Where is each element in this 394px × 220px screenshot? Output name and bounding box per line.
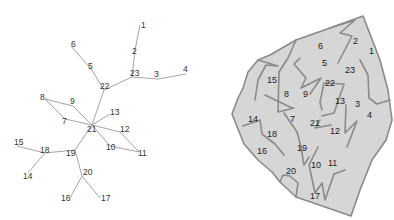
- region-label-20: 20: [286, 166, 296, 176]
- tree-edge-20-17: [82, 176, 100, 198]
- tree-edge-8-9: [45, 99, 73, 106]
- region-label-5: 5: [322, 58, 327, 68]
- region-label-7: 7: [290, 114, 295, 124]
- region-label-11: 11: [328, 158, 337, 168]
- tree-node-label-2: 2: [132, 46, 137, 56]
- region-label-15: 15: [267, 75, 277, 85]
- tree-node-label-15: 15: [14, 137, 24, 147]
- tree-node-label-16: 16: [61, 193, 71, 203]
- tree-node-label-6: 6: [71, 39, 76, 49]
- region-label-18: 18: [267, 129, 277, 139]
- tree-node-label-14: 14: [23, 171, 33, 181]
- region-label-23: 23: [345, 65, 355, 75]
- region-label-9: 9: [303, 89, 308, 99]
- tree-node-label-11: 11: [138, 148, 147, 158]
- region-label-16: 16: [257, 146, 267, 156]
- region-label-6: 6: [318, 41, 323, 51]
- tree-node-label-9: 9: [70, 96, 75, 106]
- tree-node-label-3: 3: [154, 69, 159, 79]
- tree-edge-3-4: [158, 74, 186, 79]
- tree-node-label-21: 21: [87, 124, 97, 134]
- tree-edge-20-16: [70, 176, 82, 198]
- tree-node-label-22: 22: [100, 81, 110, 91]
- tree-node-label-13: 13: [110, 107, 120, 117]
- tree-node-label-23: 23: [130, 68, 140, 78]
- region-label-10: 10: [311, 160, 321, 170]
- tree-graph-node-labels: 1223342256897211312101119181514201617: [14, 20, 188, 203]
- tree-node-label-7: 7: [62, 116, 67, 126]
- region-label-8: 8: [284, 89, 289, 99]
- region-label-13: 13: [335, 96, 345, 106]
- tree-node-label-8: 8: [40, 92, 45, 102]
- region-label-19: 19: [297, 143, 307, 153]
- tree-edge-18-14: [28, 153, 45, 173]
- region-label-21: 21: [310, 118, 320, 128]
- tree-node-label-5: 5: [88, 61, 93, 71]
- tree-node-label-17: 17: [101, 193, 111, 203]
- region-map: 1265231522891334147211218191610112017: [232, 16, 392, 216]
- region-label-22: 22: [325, 78, 335, 88]
- tree-node-label-20: 20: [83, 167, 93, 177]
- tree-node-label-12: 12: [120, 124, 130, 134]
- tree-edge-9-21: [73, 106, 92, 125]
- tree-edge-22-21: [92, 90, 104, 125]
- tree-node-label-1: 1: [141, 20, 146, 30]
- tree-edge-19-20: [75, 150, 82, 176]
- region-label-12: 12: [330, 126, 340, 136]
- figure: 1223342256897211312101119181514201617 12…: [0, 0, 394, 220]
- tree-node-label-10: 10: [106, 142, 116, 152]
- tree-node-label-4: 4: [183, 64, 188, 74]
- region-label-2: 2: [353, 36, 358, 46]
- region-label-3: 3: [355, 99, 360, 109]
- region-label-17: 17: [310, 191, 320, 201]
- region-label-14: 14: [248, 114, 258, 124]
- region-label-4: 4: [367, 110, 372, 120]
- tree-node-label-18: 18: [40, 145, 50, 155]
- tree-graph-edges: [17, 25, 186, 198]
- region-label-1: 1: [369, 46, 374, 56]
- tree-node-label-19: 19: [66, 148, 76, 158]
